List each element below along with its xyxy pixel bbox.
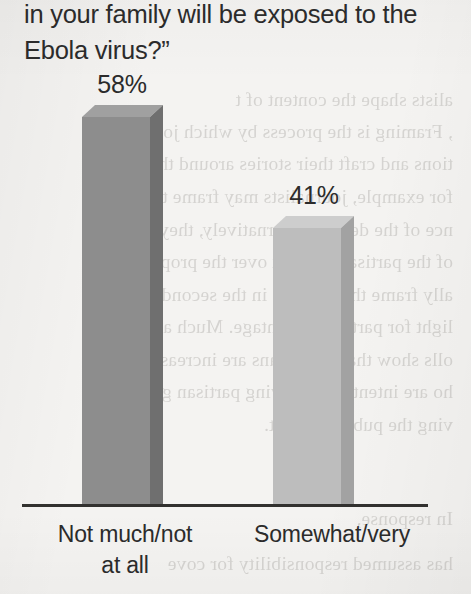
category-label-1: Somewhat/very [222,519,442,550]
bar-chart: in your family will be exposed to the Eb… [0,0,471,594]
x-axis-line [22,504,428,507]
bar-value-label-0: 58% [72,70,172,99]
bar-top-0 [82,105,163,117]
category-label-0: Not much/not at all [15,519,235,581]
bar-top-1 [273,216,354,228]
category-label-line: Not much/not [15,519,235,550]
category-label-line: at all [15,550,235,581]
scanned-page: alists shape the content of t , Framing … [0,0,471,594]
bar-value-label-1: 41% [264,181,364,210]
category-label-line: Somewhat/very [222,519,442,550]
bar-side-0 [150,105,163,506]
bar-front-0 [82,117,150,506]
bar-front-1 [273,228,341,506]
bar-side-1 [341,216,354,506]
